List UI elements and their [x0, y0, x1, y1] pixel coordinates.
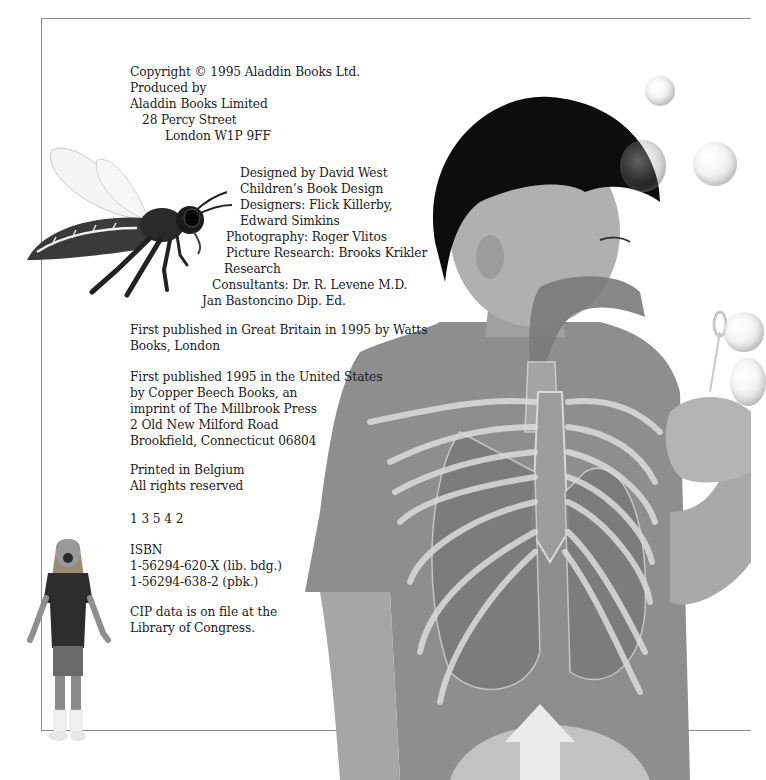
designers-line: Designers: Flick Killerby, — [202, 197, 427, 213]
bubble-3 — [693, 142, 737, 186]
us-publication-line-3: imprint of The Millbrook Press — [130, 401, 382, 417]
photography-line: Photography: Roger Vlitos — [202, 229, 427, 245]
cip-line-2: Library of Congress. — [130, 620, 277, 636]
consultants-line-2: Jan Bastoncino Dip. Ed. — [202, 293, 427, 309]
printing-block: Printed in Belgium All rights reserved — [130, 462, 245, 494]
cip-line: CIP data is on file at the — [130, 604, 277, 620]
copyright-line: Copyright © 1995 Aladdin Books Ltd. — [130, 64, 360, 80]
uk-publication-line: First published in Great Britain in 1995… — [130, 322, 427, 338]
uk-publication-block: First published in Great Britain in 1995… — [130, 322, 427, 354]
frame-top-rule — [41, 18, 751, 19]
isbn-label: ISBN — [130, 542, 282, 558]
us-publication-block: First published 1995 in the United State… — [130, 369, 382, 449]
isbn-paperback: 1-56294-638-2 (pbk.) — [130, 574, 282, 590]
publisher-block: Copyright © 1995 Aladdin Books Ltd. Prod… — [130, 64, 360, 144]
picture-research-line: Picture Research: Brooks Krikler — [202, 245, 427, 261]
designers-line-2: Edward Simkins — [202, 213, 427, 229]
bubble-2 — [620, 140, 666, 192]
printing-sequence: 1 3 5 4 2 — [130, 511, 183, 527]
design-studio-line: Children’s Book Design — [202, 181, 427, 197]
printed-in-line: Printed in Belgium — [130, 462, 245, 478]
us-publication-line-2: by Copper Beech Books, an — [130, 385, 382, 401]
consultants-line: Consultants: Dr. R. Levene M.D. — [202, 277, 427, 293]
publisher-name-line: Aladdin Books Limited — [130, 96, 360, 112]
bubble-1 — [645, 76, 675, 106]
bubble-5 — [730, 358, 766, 406]
isbn-block: ISBN 1-56294-620-X (lib. bdg.) 1-56294-6… — [130, 542, 282, 590]
us-city-line: Brookfield, Connecticut 06804 — [130, 433, 382, 449]
us-publication-line: First published 1995 in the United State… — [130, 369, 382, 385]
credits-block: Designed by David West Children’s Book D… — [202, 165, 427, 309]
picture-research-line-2: Research — [202, 261, 427, 277]
cip-block: CIP data is on file at the Library of Co… — [130, 604, 277, 636]
bubble-4 — [724, 312, 764, 352]
produced-by-line: Produced by — [130, 80, 360, 96]
street-line: 28 Percy Street — [130, 112, 360, 128]
girl-shouting-photo — [18, 528, 118, 748]
rights-line: All rights reserved — [130, 478, 245, 494]
uk-publication-line-2: Books, London — [130, 338, 427, 354]
isbn-library-binding: 1-56294-620-X (lib. bdg.) — [130, 558, 282, 574]
designer-line: Designed by David West — [202, 165, 427, 181]
city-line: London W1P 9FF — [130, 128, 360, 144]
us-address-line: 2 Old New Milford Road — [130, 417, 382, 433]
